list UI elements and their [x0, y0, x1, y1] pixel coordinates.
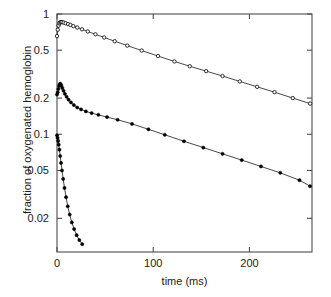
data-point: [173, 60, 176, 63]
data-point: [255, 85, 258, 88]
data-point: [308, 102, 311, 105]
data-point: [56, 91, 59, 94]
data-point: [105, 115, 108, 118]
data-point: [113, 40, 116, 43]
data-point: [80, 28, 83, 31]
data-point: [72, 103, 75, 106]
data-point: [56, 28, 59, 31]
data-point: [59, 161, 62, 164]
data-point: [140, 49, 143, 52]
data-point: [70, 221, 73, 224]
data-point: [63, 92, 66, 95]
data-point: [57, 143, 60, 146]
data-point: [57, 87, 60, 90]
plot-canvas: 10.50.20.10.050.020100200: [0, 0, 331, 297]
data-point: [221, 74, 224, 77]
data-point: [238, 80, 241, 83]
data-point: [73, 227, 76, 230]
series-line-1: [57, 84, 310, 186]
data-point: [90, 112, 93, 115]
data-point: [62, 177, 65, 180]
figure-container: 10.50.20.10.050.020100200 fraction of ox…: [0, 0, 331, 297]
data-point: [291, 96, 294, 99]
y-tick-label: 0.2: [34, 92, 49, 104]
data-point: [63, 186, 66, 189]
x-tick-label: 0: [54, 257, 60, 269]
x-tick-label: 200: [240, 257, 258, 269]
data-point: [94, 33, 97, 36]
data-point: [308, 185, 311, 188]
data-point: [156, 54, 159, 57]
data-point: [57, 139, 60, 142]
data-point: [62, 89, 65, 92]
y-axis-label: fraction of oxygenated hemoglobin: [21, 15, 33, 245]
y-tick-label: 1: [43, 8, 49, 20]
series-line-2: [57, 135, 82, 244]
y-tick-label: 0.5: [34, 44, 49, 56]
data-point: [240, 158, 243, 161]
data-point: [81, 243, 84, 246]
data-point: [298, 179, 301, 182]
data-point: [76, 26, 79, 29]
data-point: [126, 44, 129, 47]
data-point: [56, 136, 59, 139]
data-point: [69, 101, 72, 104]
data-point: [72, 24, 75, 27]
data-point: [163, 133, 166, 136]
data-point: [68, 213, 71, 216]
data-point: [147, 128, 150, 131]
y-tick-label: 0.1: [34, 128, 49, 140]
data-point: [279, 171, 282, 174]
data-point: [75, 234, 78, 237]
data-point: [221, 152, 224, 155]
data-point: [78, 238, 81, 241]
data-point: [102, 36, 105, 39]
data-point: [67, 98, 70, 101]
data-point: [130, 122, 133, 125]
data-point: [182, 140, 185, 143]
data-point: [84, 110, 87, 113]
data-point: [58, 148, 61, 151]
data-point: [188, 65, 191, 68]
data-point: [116, 118, 119, 121]
data-point: [55, 34, 58, 37]
data-point: [59, 154, 62, 157]
data-point: [66, 205, 69, 208]
data-point: [97, 113, 100, 116]
data-point: [65, 95, 68, 98]
data-point: [79, 108, 82, 111]
data-point: [204, 69, 207, 72]
data-point: [64, 196, 67, 199]
x-tick-label: 100: [144, 257, 162, 269]
x-axis-label: time (ms): [57, 275, 312, 287]
data-point: [259, 165, 262, 168]
data-point: [76, 106, 79, 109]
data-point: [202, 146, 205, 149]
data-point: [273, 90, 276, 93]
data-point: [86, 30, 89, 33]
data-point: [60, 169, 63, 172]
